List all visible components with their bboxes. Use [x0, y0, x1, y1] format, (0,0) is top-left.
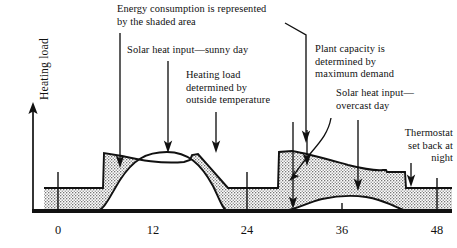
- leader-solar-overcast: [354, 120, 362, 191]
- x-tick-label-24: 24: [241, 223, 253, 238]
- x-tick-label-12: 12: [147, 223, 159, 238]
- annotation-thermostat-setback: Thermostat set back at night: [383, 127, 453, 165]
- annotation-energy-consumption: Energy consumption is represented by the…: [117, 3, 322, 28]
- figure-root: Heating load 0 12 24 36 48 Energy consum…: [0, 0, 457, 248]
- x-tick-label-48: 48: [431, 223, 443, 238]
- annotation-solar-overcast-day: Solar heat input— overcast day: [336, 87, 451, 112]
- leader-heating-load-outside-temp: [212, 112, 220, 153]
- y-axis-label: Heating load: [38, 38, 51, 100]
- annotation-solar-sunny-day: Solar heat input—sunny day: [127, 44, 317, 57]
- x-tick-label-0: 0: [55, 223, 61, 238]
- annotation-plant-capacity: Plant capacity is determined by maximum …: [315, 43, 435, 81]
- annotation-heating-load-outside-temperature: Heating load determined by outside tempe…: [186, 69, 316, 107]
- y-axis-arrow-icon: [28, 102, 37, 212]
- heating-load-chart: [0, 0, 457, 248]
- x-tick-label-36: 36: [336, 223, 348, 238]
- leader-thermostat-setback: [407, 163, 415, 187]
- leader-energy-consumption: [116, 33, 124, 168]
- leader-solar-sunny: [164, 61, 172, 153]
